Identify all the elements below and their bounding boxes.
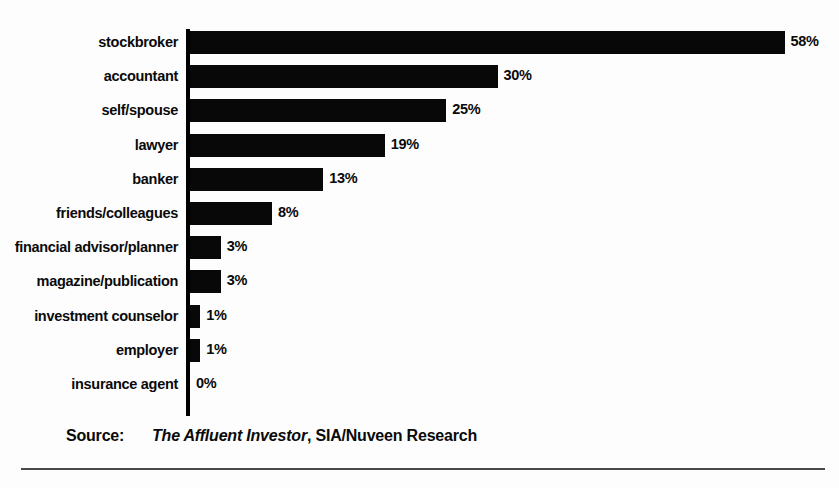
bar — [190, 339, 200, 362]
bar-category-label: financial advisor/planner — [0, 235, 178, 259]
bar-category-label: stockbroker — [0, 30, 178, 54]
bar-category-label: magazine/publication — [0, 269, 178, 293]
bar-value-label: 0% — [196, 372, 216, 395]
bar-fill — [190, 134, 385, 157]
bar-row: insurance agent0% — [0, 372, 839, 406]
bar-row: banker13% — [0, 167, 839, 201]
bar — [190, 202, 272, 225]
bar-row: magazine/publication3% — [0, 269, 839, 303]
source-publisher: , SIA/Nuveen Research — [307, 427, 477, 444]
bar-value-label: 1% — [206, 338, 226, 361]
bar-fill — [190, 270, 221, 293]
bar-fill — [190, 65, 498, 88]
bar — [190, 236, 221, 259]
bar-row: friends/colleagues8% — [0, 201, 839, 235]
bar-value-label: 3% — [227, 269, 247, 292]
bar-row: self/spouse25% — [0, 98, 839, 132]
source-title: The Affluent Investor — [152, 427, 307, 444]
bar-category-label: friends/colleagues — [0, 201, 178, 225]
bar-category-label: banker — [0, 167, 178, 191]
bar-chart: stockbroker58%accountant30%self/spouse25… — [0, 0, 839, 420]
bar-category-label: insurance agent — [0, 372, 178, 396]
bar-category-label: lawyer — [0, 133, 178, 157]
bar-fill — [190, 339, 200, 362]
bar-fill — [190, 305, 200, 328]
chart-page: stockbroker58%accountant30%self/spouse25… — [0, 0, 839, 488]
bar-row: accountant30% — [0, 64, 839, 98]
bar-value-label: 8% — [278, 201, 298, 224]
bar — [190, 65, 498, 88]
bar-value-label: 1% — [206, 304, 226, 327]
source-label: Source: — [66, 427, 152, 445]
bar-value-label: 19% — [391, 133, 419, 156]
bar — [190, 134, 385, 157]
bar-category-label: accountant — [0, 64, 178, 88]
bar-row: lawyer19% — [0, 133, 839, 167]
bar-row: financial advisor/planner3% — [0, 235, 839, 269]
bar — [190, 305, 200, 328]
bar-value-label: 13% — [329, 167, 357, 190]
bar-fill — [190, 168, 323, 191]
source-note: Source:The Affluent Investor, SIA/Nuveen… — [66, 427, 477, 445]
bar — [190, 99, 446, 122]
bar-value-label: 3% — [227, 235, 247, 258]
bar-value-label: 58% — [791, 30, 819, 53]
bar — [190, 31, 785, 54]
bar-category-label: self/spouse — [0, 98, 178, 122]
bar-fill — [190, 236, 221, 259]
bar — [190, 168, 323, 191]
bar-fill — [190, 31, 785, 54]
bottom-divider — [21, 468, 825, 470]
bar-row: stockbroker58% — [0, 30, 839, 64]
bar-value-label: 25% — [452, 98, 480, 121]
bar-value-label: 30% — [504, 64, 532, 87]
bar-row: investment counselor1% — [0, 304, 839, 338]
bar-fill — [190, 202, 272, 225]
bar-fill — [190, 99, 446, 122]
bar — [190, 270, 221, 293]
bar-category-label: employer — [0, 338, 178, 362]
bar-row: employer1% — [0, 338, 839, 372]
bar-category-label: investment counselor — [0, 304, 178, 328]
